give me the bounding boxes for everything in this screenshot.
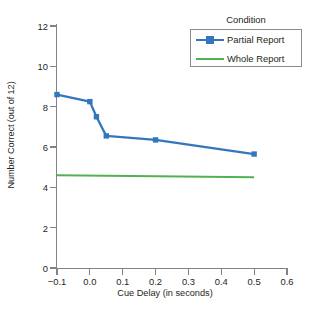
legend-label-partial-report: Partial Report	[227, 34, 284, 45]
legend-item-partial-report[interactable]: Partial Report	[191, 30, 303, 49]
data-point-marker	[104, 133, 109, 138]
legend-swatch-whole-report	[195, 52, 225, 66]
series-layer	[54, 92, 257, 177]
legend-title: Condition	[186, 14, 306, 25]
legend-swatch-partial-report	[195, 33, 225, 47]
legend-box: Partial Report Whole Report	[190, 29, 302, 67]
data-point-marker	[87, 99, 92, 104]
data-point-marker	[251, 151, 256, 156]
chart-figure: Number Correct (out of 12) 024681012 −0.…	[0, 0, 316, 321]
x-axis-title: Cue Delay (in seconds)	[40, 288, 290, 298]
series-line-partial-report	[57, 95, 254, 154]
legend-item-whole-report[interactable]: Whole Report	[191, 49, 303, 68]
data-point-marker	[94, 114, 99, 119]
data-point-marker	[153, 137, 158, 142]
data-point-marker	[54, 92, 59, 97]
series-line-whole-report	[57, 175, 254, 177]
legend-label-whole-report: Whole Report	[227, 53, 284, 64]
